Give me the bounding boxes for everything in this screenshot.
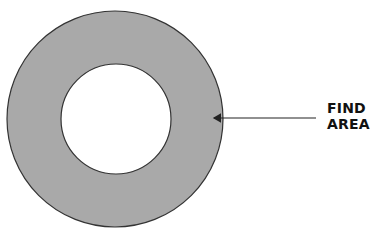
label-line-1: FIND (327, 100, 370, 116)
annulus-diagram (0, 0, 379, 234)
label-line-2: AREA (327, 116, 370, 132)
find-area-label: FIND AREA (327, 100, 370, 132)
inner-circle (61, 64, 171, 174)
